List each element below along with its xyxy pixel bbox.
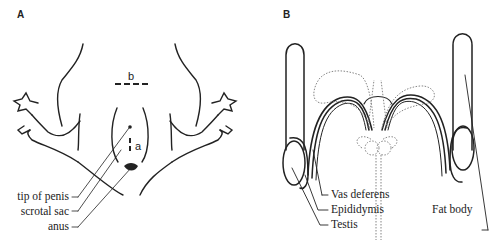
label-scrotal-sac: scrotal sac: [21, 205, 69, 217]
dimension-label-b: b: [128, 70, 134, 82]
anus-mark: [124, 163, 138, 171]
label-testis: Testis: [331, 218, 358, 230]
label-epididymis: Epididymis: [331, 203, 384, 215]
panel-letter-b: B: [283, 9, 290, 20]
dimension-label-a: a: [135, 140, 141, 152]
label-anus: anus: [48, 220, 69, 232]
panel-a: A b a tip of penis scrotal sac anus: [0, 0, 250, 242]
panel-letter-a: A: [17, 9, 24, 20]
label-fat-body: Fat body: [432, 203, 473, 215]
tip-of-penis-dot: [128, 125, 132, 129]
panel-b: B Vas deferens Epididymis Testis Fat bod…: [250, 0, 498, 242]
label-vas-deferens: Vas deferens: [331, 188, 389, 200]
label-tip-of-penis: tip of penis: [17, 190, 69, 202]
